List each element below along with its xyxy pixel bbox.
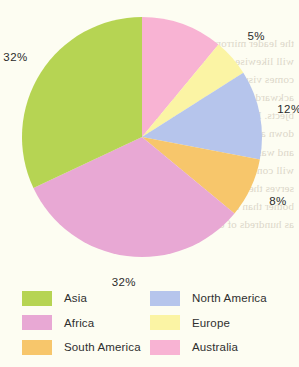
legend-label: Australia xyxy=(192,341,238,353)
pie-slice-group xyxy=(22,17,262,257)
legend-swatch-icon xyxy=(22,340,52,355)
legend-swatch-icon xyxy=(22,291,52,306)
pie-chart-page: the leader mirrors the greater will like… xyxy=(0,0,299,367)
slice-label-asia: 32% xyxy=(3,51,27,63)
slice-label-north-america: 12% xyxy=(277,103,299,115)
legend-label: Africa xyxy=(64,317,94,329)
legend-swatch-icon xyxy=(22,315,52,330)
legend-item-africa: Africa xyxy=(22,315,150,330)
legend-item-asia: Asia xyxy=(22,291,150,306)
pie-chart: 11% 5% 12% 8% 32% 32% xyxy=(0,0,299,280)
slice-label-south-america: 8% xyxy=(269,195,286,207)
legend-item-europe: Europe xyxy=(150,315,278,330)
legend-label: South America xyxy=(64,341,141,353)
legend-swatch-icon xyxy=(150,340,180,355)
chart-legend: Asia North America Africa Europe South A… xyxy=(22,286,278,360)
legend-swatch-icon xyxy=(150,315,180,330)
legend-label: Europe xyxy=(192,317,230,329)
legend-item-australia: Australia xyxy=(150,340,278,355)
legend-swatch-icon xyxy=(150,291,180,306)
legend-label: North America xyxy=(192,292,267,304)
legend-item-south-america: South America xyxy=(22,340,150,355)
slice-label-europe: 5% xyxy=(248,30,265,42)
legend-item-north-america: North America xyxy=(150,291,278,306)
legend-label: Asia xyxy=(64,292,87,304)
